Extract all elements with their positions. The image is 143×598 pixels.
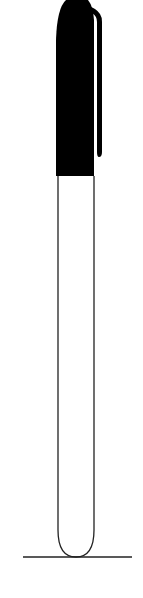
- marker-cap: [56, 0, 94, 176]
- marker-barrel: [58, 176, 94, 557]
- marker-illustration: [0, 0, 143, 598]
